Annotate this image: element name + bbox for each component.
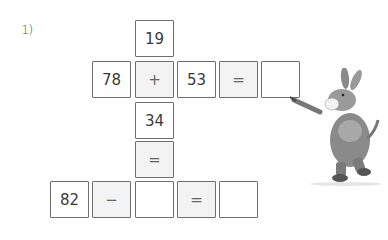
exercise-number: 1) — [21, 22, 32, 37]
number-cell-top: 19 — [135, 20, 174, 57]
minus-operator-cell: − — [92, 181, 131, 218]
equals-operator-cell: = — [219, 61, 258, 98]
equals-operator-cell: = — [177, 181, 216, 218]
equals-operator-cell-vertical: = — [135, 141, 174, 178]
number-cell: 34 — [135, 102, 174, 139]
number-cell: 53 — [177, 61, 216, 98]
answer-cell-row4[interactable] — [219, 181, 258, 218]
number-cell: 78 — [92, 61, 131, 98]
donkey-pointing-icon — [290, 68, 386, 188]
answer-cell-vertical[interactable] — [135, 181, 174, 218]
number-cell: 82 — [50, 181, 89, 218]
plus-operator-cell: + — [135, 61, 174, 98]
